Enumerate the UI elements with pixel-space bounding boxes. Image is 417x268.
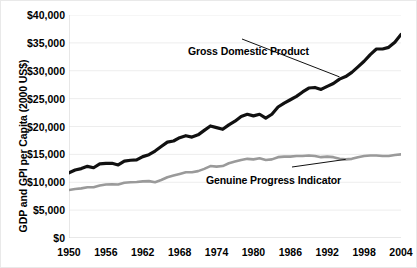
y-axis-tick-label: $35,000 <box>9 37 65 49</box>
chart-container: GDP and GPI per Capita (2000 US$) $40,00… <box>0 0 417 268</box>
x-axis-tick-label: 1962 <box>131 246 154 258</box>
x-axis-tick-label: 1992 <box>316 246 339 258</box>
x-axis-tick-label: 1980 <box>242 246 265 258</box>
y-axis-tick-label: $0 <box>9 232 65 244</box>
x-axis-tick-label: 1968 <box>168 246 191 258</box>
x-axis-tick-label: 1956 <box>94 246 117 258</box>
x-axis-tick-label: 1986 <box>279 246 302 258</box>
y-axis-tick-label: $5,000 <box>9 204 65 216</box>
leader-line <box>292 159 346 167</box>
y-axis-tick-label: $10,000 <box>9 176 65 188</box>
x-axis-tick-label: 2004 <box>389 246 412 258</box>
annotation-leader-lines <box>242 39 346 167</box>
y-axis-tick-label: $25,000 <box>9 93 65 105</box>
data-series <box>69 35 401 191</box>
y-axis-tick-label: $20,000 <box>9 121 65 133</box>
annotation-label-gdp: Gross Domestic Product <box>188 45 309 57</box>
y-axis-tick-labels: $40,000$35,000$30,000$25,000$20,000$15,0… <box>5 1 65 268</box>
x-axis-tick-label: 1974 <box>205 246 228 258</box>
y-axis-tick-label: $30,000 <box>9 65 65 77</box>
y-axis-tick-label: $40,000 <box>9 9 65 21</box>
y-axis-tick-label: $15,000 <box>9 148 65 160</box>
x-axis-tick-label: 1950 <box>57 246 80 258</box>
x-axis-tick-label: 1998 <box>352 246 375 258</box>
annotation-label-gpi: Genuine Progress Indicator <box>206 174 341 186</box>
